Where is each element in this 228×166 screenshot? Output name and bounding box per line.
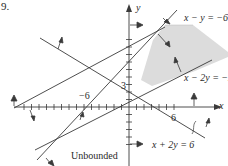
tick-label-6: 6 (171, 113, 176, 123)
problem-number: 9. (1, 1, 9, 12)
x-axis-label: x (219, 101, 223, 111)
inequality-graph: 9. y x −6 6 3 x − y = −6 x − 2y = −2 x +… (0, 0, 228, 166)
tick-label-neg6: −6 (79, 91, 90, 101)
region-label: Unbounded (71, 151, 118, 161)
arrow-right-icon (137, 22, 143, 28)
line-x-minus-y-eq-neg6 (37, 10, 177, 160)
arrow-up-icon (191, 93, 197, 99)
tick-label-3: 3 (121, 81, 126, 91)
equation-label-x-plus-2y: x + 2y = 6 (152, 140, 194, 150)
x-axis-ticks (24, 104, 174, 110)
equation-label-x-minus-2y: x − 2y = −2 (184, 73, 228, 83)
arrow-down-icon (31, 116, 35, 121)
arrow-up-icon (11, 95, 17, 101)
y-axis-arrow-icon (126, 4, 132, 12)
arrow-up-icon (206, 118, 210, 123)
y-axis-label: y (136, 3, 140, 13)
arrow-up-icon (59, 37, 63, 43)
arrow-right-icon (137, 141, 143, 147)
equation-label-x-minus-y: x − y = −6 (184, 13, 228, 23)
